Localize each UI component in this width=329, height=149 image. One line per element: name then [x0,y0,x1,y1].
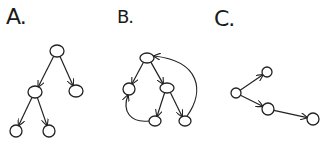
edge-b2-b4 [170,92,182,116]
edge-a1-a4 [37,98,47,126]
edge-b2-b3 [157,93,165,117]
edge-c0-c1 [240,75,263,90]
node-b0 [140,53,154,63]
node-a4 [43,125,55,137]
node-a3 [10,125,22,137]
node-c0 [231,88,241,98]
edge-b0-b2 [151,62,163,84]
node-a0 [50,45,64,57]
node-b3 [149,116,161,126]
node-b2 [160,83,174,93]
node-c1 [262,67,272,77]
edge-c2-c3 [274,110,307,117]
node-c2 [262,103,274,115]
node-a2 [69,85,83,97]
node-b1 [123,83,135,95]
edge-b0-b1 [132,62,143,83]
edge-a0-a2 [60,56,73,85]
edge-a1-a3 [19,97,32,125]
node-a1 [28,86,42,98]
edge-b3-b1 [126,95,149,121]
edge-a0-a1 [38,56,53,86]
node-c3 [307,113,319,125]
node-b4 [179,116,191,126]
graph-diagram [0,0,329,149]
edge-c0-c2 [240,95,262,106]
